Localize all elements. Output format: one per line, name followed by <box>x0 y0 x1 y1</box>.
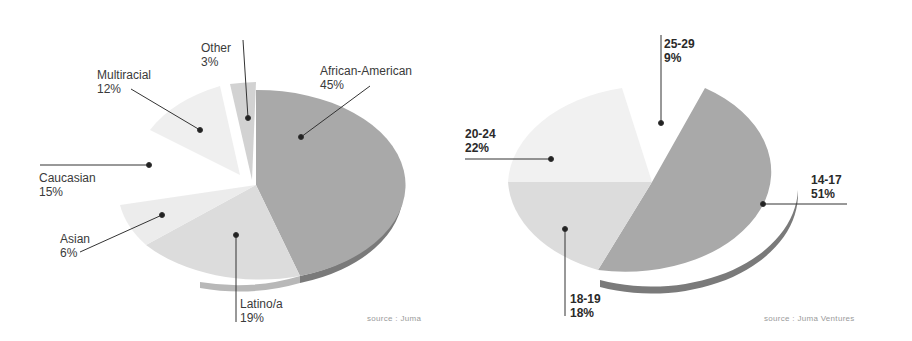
label-asian-pct: 6% <box>60 246 90 260</box>
label-18-19: 18-19 18% <box>570 292 601 320</box>
age-pie-chart: 25-29 9% 20-24 22% 14-17 51% 18-19 18% s… <box>450 0 912 341</box>
label-multiracial: Multiracial 12% <box>97 68 151 96</box>
label-latino-pct: 19% <box>240 311 283 325</box>
label-14-17-pct: 51% <box>811 187 842 201</box>
label-20-24-name: 20-24 <box>465 127 496 141</box>
source-note: source : Juma Ventures <box>764 314 855 323</box>
label-caucasian: Caucasian 15% <box>39 171 96 199</box>
label-latino-name: Latino/a <box>240 297 283 311</box>
label-multiracial-name: Multiracial <box>97 68 151 82</box>
label-14-17: 14-17 51% <box>811 173 842 201</box>
label-18-19-pct: 18% <box>570 306 601 320</box>
label-latino: Latino/a 19% <box>240 297 283 325</box>
label-25-29: 25-29 9% <box>664 37 695 65</box>
label-asian-name: Asian <box>60 232 90 246</box>
label-25-29-pct: 9% <box>664 51 695 65</box>
label-14-17-name: 14-17 <box>811 173 842 187</box>
label-other-name: Other <box>201 41 231 55</box>
label-caucasian-pct: 15% <box>39 185 96 199</box>
source-note: source : Juma <box>367 314 421 323</box>
label-other-pct: 3% <box>201 55 231 69</box>
label-multiracial-pct: 12% <box>97 82 151 96</box>
label-25-29-name: 25-29 <box>664 37 695 51</box>
label-other: Other 3% <box>201 41 231 69</box>
label-20-24: 20-24 22% <box>465 127 496 155</box>
slice-20-24 <box>508 88 652 182</box>
label-african-american-pct: 45% <box>320 78 412 92</box>
label-african-american-name: African-American <box>320 64 412 78</box>
label-20-24-pct: 22% <box>465 141 496 155</box>
label-african-american: African-American 45% <box>320 64 412 92</box>
ethnicity-pie-chart: Other 3% Multiracial 12% African-America… <box>0 0 450 341</box>
label-asian: Asian 6% <box>60 232 90 260</box>
label-caucasian-name: Caucasian <box>39 171 96 185</box>
label-18-19-name: 18-19 <box>570 292 601 306</box>
slice-multiracial <box>150 86 240 175</box>
